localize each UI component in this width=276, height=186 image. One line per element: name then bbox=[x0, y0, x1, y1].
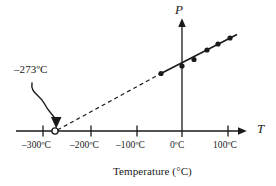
data-point bbox=[179, 63, 184, 68]
data-point bbox=[191, 57, 196, 62]
data-point bbox=[204, 47, 209, 52]
extrapolation-dashed-line bbox=[58, 74, 161, 130]
data-point bbox=[227, 35, 232, 40]
x-axis-label-temperature-symbol: T bbox=[257, 122, 264, 135]
absolute-zero-pressure-temperature-figure: –273ºC –300ºC –200ºC –100ºC 0ºC 100ºC P … bbox=[0, 0, 276, 186]
y-axis-label-pressure: P bbox=[175, 3, 183, 16]
absolute-zero-annotation-label: –273ºC bbox=[14, 64, 47, 75]
x-tick-label-minus100: –100ºC bbox=[116, 141, 145, 151]
x-tick-label-minus200: –200ºC bbox=[70, 141, 99, 151]
absolute-zero-open-marker bbox=[52, 128, 58, 134]
x-tick-label-minus300: –300ºC bbox=[22, 141, 51, 151]
data-trend-line bbox=[159, 35, 237, 75]
x-tick-label-zero: 0ºC bbox=[170, 141, 184, 151]
figure-caption: Temperature (°C) bbox=[113, 166, 192, 177]
curved-arrow-icon bbox=[32, 83, 62, 129]
x-axis bbox=[16, 126, 239, 137]
data-point bbox=[158, 71, 163, 76]
data-point bbox=[215, 41, 220, 46]
plot-area bbox=[0, 0, 276, 186]
x-tick-label-100: 100ºC bbox=[213, 141, 237, 151]
